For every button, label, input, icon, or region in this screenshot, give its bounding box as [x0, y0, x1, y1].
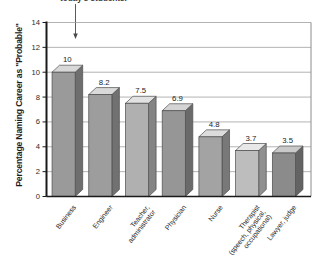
bar-group: 8.2: [89, 78, 120, 197]
x-axis-category-label: Therapist(speech, physical,occupational): [221, 204, 273, 262]
bar-value-label: 6.9: [172, 94, 183, 103]
y-tick-label: 14: [32, 18, 40, 27]
bar-front-face: [272, 153, 295, 197]
x-axis-category-line: Lawyer, judge: [266, 204, 299, 243]
bar-front-face: [125, 103, 148, 196]
bar-group: 4.8: [199, 120, 230, 197]
bar-front-face: [162, 111, 185, 197]
bar-front-face: [52, 72, 75, 196]
bar-group: 7.5: [125, 86, 156, 196]
y-tick-label: 12: [32, 43, 40, 52]
x-axis-category-label: Business: [54, 203, 78, 230]
x-axis-category-label: Nurse: [207, 204, 225, 224]
bar-chart-figure: today's students. Percentage Naming Care…: [0, 0, 322, 275]
bar-value-label: 7.5: [135, 86, 147, 95]
plot-area: 02468101214108.27.56.94.83.73.5BusinessE…: [0, 0, 322, 275]
y-tick-label: 2: [36, 167, 40, 176]
bar-group: 10: [52, 55, 83, 196]
x-axis-category-line: Nurse: [207, 204, 225, 224]
bar-side-face: [259, 144, 267, 197]
x-axis-category-line: Business: [54, 203, 78, 230]
bar-value-label: 4.8: [209, 120, 220, 129]
x-axis-category-label: Physician: [164, 204, 189, 232]
y-tick-label: 8: [36, 93, 40, 102]
bar-side-face: [185, 104, 193, 197]
bar-side-face: [112, 88, 120, 197]
bar-front-face: [199, 137, 222, 197]
x-axis-category-label: Lawyer, judge: [266, 204, 299, 243]
bar-group: 3.7: [236, 134, 267, 197]
bar-front-face: [236, 151, 259, 197]
x-axis-category-line: Engineer: [91, 203, 115, 230]
bar-front-face: [89, 95, 112, 197]
bar-side-face: [222, 130, 230, 197]
y-tick-label: 10: [32, 68, 40, 77]
bar-side-face: [75, 65, 83, 196]
bar-value-label: 8.2: [99, 78, 110, 87]
bar-group: 6.9: [162, 94, 193, 197]
bar-side-face: [149, 96, 157, 196]
y-tick-label: 0: [36, 192, 40, 201]
x-axis-category-label: Teacher,administrator: [121, 203, 158, 244]
x-axis-category-label: Engineer: [91, 203, 115, 230]
bar-group: 3.5: [272, 136, 303, 197]
bar-value-label: 3.5: [282, 136, 294, 145]
x-axis-category-line: Physician: [164, 204, 189, 232]
bar-side-face: [295, 146, 303, 197]
y-tick-label: 4: [36, 142, 40, 151]
bar-value-label: 3.7: [246, 134, 257, 143]
bar-value-label: 10: [63, 55, 72, 64]
y-tick-label: 6: [36, 117, 40, 126]
